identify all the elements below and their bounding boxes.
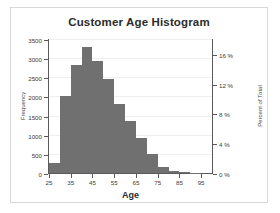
right-tick-mark xyxy=(213,114,217,115)
x-tick-label: 75 xyxy=(154,179,161,186)
x-tick-label: 65 xyxy=(132,179,139,186)
left-tick-mark xyxy=(44,155,48,156)
x-tick-mark xyxy=(201,174,202,178)
right-tick-label: 4 % xyxy=(219,141,230,148)
x-axis-title: Age xyxy=(48,190,213,200)
right-axis-line xyxy=(212,39,213,174)
right-tick-label: 16 % xyxy=(219,51,233,58)
right-tick-label: 12 % xyxy=(219,81,233,88)
gridline xyxy=(49,58,212,59)
histogram-bar xyxy=(49,163,60,173)
histogram-bar xyxy=(92,61,103,173)
chart-figure: Customer Age Histogram Frequency Percent… xyxy=(10,7,268,203)
left-tick-mark xyxy=(44,174,48,175)
right-tick-mark xyxy=(213,85,217,86)
x-tick-mark xyxy=(92,174,93,178)
x-tick-label: 85 xyxy=(176,179,183,186)
histogram-bar xyxy=(147,154,158,173)
left-tick-mark xyxy=(44,59,48,60)
chart-title: Customer Age Histogram xyxy=(11,16,267,28)
gridline xyxy=(49,39,212,40)
histogram-bar xyxy=(82,47,93,173)
histogram-bar xyxy=(136,138,147,173)
left-tick-mark xyxy=(44,117,48,118)
right-tick-mark xyxy=(213,55,217,56)
x-tick-mark xyxy=(136,174,137,178)
right-tick-mark xyxy=(213,144,217,145)
left-tick-mark xyxy=(44,78,48,79)
right-tick-label: 8 % xyxy=(219,111,230,118)
histogram-bar xyxy=(158,167,169,173)
left-tick-label: 3500 xyxy=(28,37,42,44)
right-tick-mark xyxy=(213,174,217,175)
histogram-bar xyxy=(103,79,114,173)
x-tick-mark xyxy=(49,174,50,178)
histogram-bar xyxy=(169,171,180,173)
histogram-bar xyxy=(125,121,136,173)
bottom-axis-line xyxy=(48,173,213,174)
left-tick-mark xyxy=(44,97,48,98)
left-tick-label: 2000 xyxy=(28,94,42,101)
left-tick-label: 1000 xyxy=(28,132,42,139)
right-tick-label: 0 % xyxy=(219,171,230,178)
left-tick-mark xyxy=(44,136,48,137)
left-tick-label: 2500 xyxy=(28,75,42,82)
x-tick-label: 35 xyxy=(67,179,74,186)
x-tick-mark xyxy=(179,174,180,178)
x-tick-label: 25 xyxy=(46,179,53,186)
y-axis-title-right: Percent of Total xyxy=(257,85,263,127)
left-tick-label: 500 xyxy=(32,151,42,158)
x-tick-mark xyxy=(71,174,72,178)
x-tick-label: 45 xyxy=(89,179,96,186)
x-tick-label: 95 xyxy=(198,179,205,186)
left-tick-mark xyxy=(44,40,48,41)
histogram-bar xyxy=(114,104,125,173)
x-tick-label: 55 xyxy=(111,179,118,186)
y-axis-title-left: Frequency xyxy=(20,92,26,120)
histogram-bar xyxy=(60,96,71,173)
plot-area: 0500100015002000250030003500 0 %4 %8 %12… xyxy=(48,39,213,174)
x-tick-mark xyxy=(114,174,115,178)
histogram-bar xyxy=(179,172,190,173)
left-tick-label: 1500 xyxy=(28,113,42,120)
left-tick-label: 3000 xyxy=(28,56,42,63)
left-tick-label: 0 xyxy=(39,171,42,178)
histogram-bar xyxy=(71,65,82,173)
x-tick-mark xyxy=(158,174,159,178)
